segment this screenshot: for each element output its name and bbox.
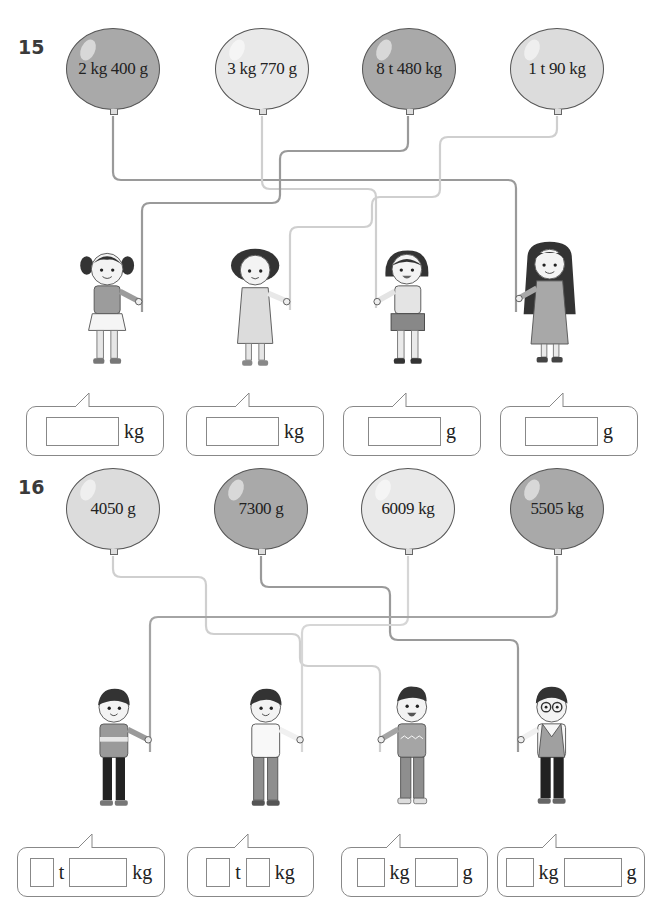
boy-sweater-figure [374,683,444,813]
answer-input-kg[interactable] [246,858,270,887]
unit-label: g [627,861,637,884]
answer-input-kg[interactable] [69,858,127,887]
boy-hoodie-figure [90,685,160,815]
unit-label: t [235,861,241,884]
balloon-16-4: 5505 kg [510,468,604,550]
string-b4-to-boy1 [150,556,557,752]
speech-tail [234,834,254,848]
speech-tail [78,834,98,848]
unit-label: kg [132,861,152,884]
answer-input-t[interactable] [30,858,54,887]
balloon-16-3: 6009 kg [361,468,455,550]
knot [554,549,562,555]
answer-input-g[interactable] [415,858,458,887]
balloon-label: 6009 kg [381,499,434,519]
unit-label: kg [390,861,410,884]
answer-input-g[interactable] [564,858,622,887]
knot [405,549,413,555]
answer-bubble-16-1: t kg [17,847,165,897]
answer-input-kg[interactable] [506,858,534,887]
boy-glasses-figure [512,683,582,813]
balloon-16-2: 7300 g [214,468,308,550]
answer-input-t[interactable] [206,858,230,887]
answer-bubble-16-2: t kg [187,847,314,897]
unit-label: kg [539,861,559,884]
answer-bubble-16-4: kg g [497,847,645,897]
speech-tail [542,834,562,848]
balloon-label: 5505 kg [530,499,583,519]
unit-label: t [59,861,65,884]
knot [110,549,118,555]
balloon-16-1: 4050 g [66,468,160,550]
answer-input-kg[interactable] [357,858,385,887]
knot [258,549,266,555]
speech-tail [386,834,406,848]
balloon-label: 4050 g [91,499,136,519]
unit-label: g [463,861,473,884]
balloon-label: 7300 g [239,499,284,519]
boy-white-shirt-figure [240,685,310,815]
unit-label: kg [275,861,295,884]
answer-bubble-16-3: kg g [341,847,488,897]
